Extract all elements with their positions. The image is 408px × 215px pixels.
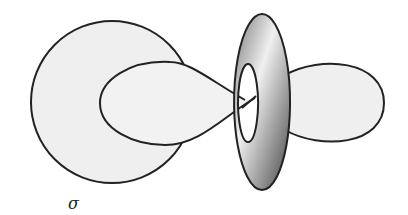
right-lobe <box>285 64 384 142</box>
diagram-canvas <box>0 0 408 215</box>
sigma-label: σ <box>68 194 79 213</box>
figure-eight-curve <box>100 62 255 145</box>
